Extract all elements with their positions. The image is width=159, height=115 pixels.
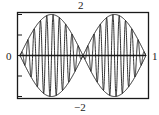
x-max-label: 1 [152, 51, 158, 62]
chart-plot [0, 0, 159, 115]
x-min-label: 0 [6, 51, 12, 62]
y-max-label: 2 [78, 0, 84, 11]
signal-curve [20, 15, 146, 97]
y-min-label: −2 [74, 102, 86, 113]
